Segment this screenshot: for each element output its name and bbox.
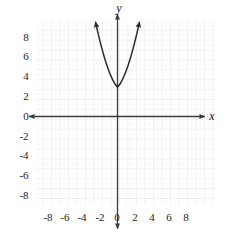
x-tick-label: 0 [114,211,120,223]
x-tick-label: 8 [183,211,189,223]
x-tick-label: 4 [149,211,155,223]
x-axis-label: x [208,109,215,123]
x-tick-label: 6 [166,211,172,223]
x-tick-label: -8 [43,211,53,223]
y-tick-label: 8 [23,31,29,43]
x-tick-label: -6 [60,211,70,223]
x-tick-label: 2 [132,211,138,223]
y-axis-label: y [115,1,122,15]
y-tick-label: -2 [19,130,28,142]
x-axis-tick-labels: -8 -6 -4 -2 0 2 4 6 8 [43,211,189,223]
y-tick-label: -8 [19,189,29,201]
y-tick-label: 0 [23,110,29,122]
y-tick-label: 2 [23,90,29,102]
coordinate-plane-graph: -8 -6 -4 -2 0 2 4 6 8 8 6 4 2 0 -2 -4 -6… [0,0,241,238]
y-tick-label: -4 [19,149,29,161]
y-tick-label: 6 [23,50,29,62]
y-axis-tick-labels: 8 6 4 2 0 -2 -4 -6 -8 [19,31,29,201]
y-tick-label: 4 [23,70,29,82]
y-tick-label: -6 [19,169,29,181]
x-tick-label: -2 [95,211,104,223]
grid-area [36,21,214,205]
graph-figure: -8 -6 -4 -2 0 2 4 6 8 8 6 4 2 0 -2 -4 -6… [0,0,241,238]
background-grid [36,21,214,205]
x-tick-label: -4 [77,211,87,223]
